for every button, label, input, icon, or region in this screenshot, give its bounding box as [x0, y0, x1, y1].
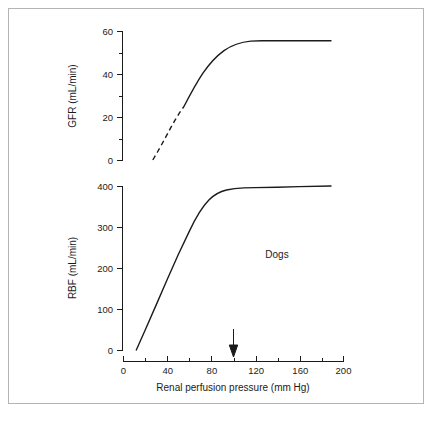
group-annotation-label: Dogs	[265, 249, 288, 260]
xticklabel-200: 200	[336, 365, 352, 376]
rbf-yticklabel-200: 200	[97, 263, 113, 274]
gfr-curve-solid	[184, 41, 331, 107]
gfr-yticklabel-20: 20	[102, 112, 113, 123]
gfr-yticklabel-0: 0	[108, 155, 113, 166]
gfr-yticklabel-40: 40	[102, 69, 113, 80]
autoregulation-threshold-arrow-icon	[229, 329, 237, 357]
rbf-axis-title: RBF (mL/min)	[67, 237, 78, 299]
xticklabel-80: 80	[207, 365, 218, 376]
x-axis-title: Renal perfusion pressure (mm Hg)	[156, 382, 309, 393]
rbf-yticklabel-100: 100	[97, 304, 113, 315]
figure-page: 60 40 20 0 GFR (mL/min) 400 300 200	[0, 0, 435, 421]
gfr-yticklabel-60: 60	[102, 26, 113, 37]
rbf-yticklabel-0: 0	[108, 345, 113, 356]
renal-autoregulation-figure: 60 40 20 0 GFR (mL/min) 400 300 200	[0, 0, 435, 421]
gfr-axis-title: GFR (mL/min)	[67, 64, 78, 127]
rbf-yticklabel-300: 300	[97, 222, 113, 233]
gfr-curve-dashed	[153, 107, 184, 160]
rbf-panel: 400 300 200 100 0 RBF (mL/min) Dogs	[67, 181, 331, 357]
xticklabel-0: 0	[121, 365, 126, 376]
rbf-curve	[136, 186, 331, 350]
gfr-panel: 60 40 20 0 GFR (mL/min)	[67, 26, 331, 166]
xticklabel-160: 160	[292, 365, 308, 376]
xticklabel-40: 40	[162, 365, 173, 376]
xticklabel-120: 120	[248, 365, 264, 376]
rbf-yticklabel-400: 400	[97, 181, 113, 192]
shared-x-axis: 0 40 80 120 160 200 Renal perfusion pres…	[121, 356, 352, 393]
